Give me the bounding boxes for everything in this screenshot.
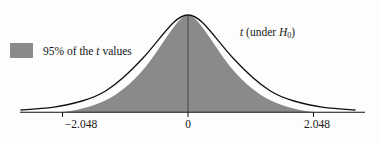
legend: 95% of the t values (10, 43, 132, 58)
curve-label-open: (under (243, 26, 279, 38)
tick-label-positive-critical-value: 2.048 (286, 119, 348, 131)
legend-swatch-shaded-area (10, 43, 33, 58)
curve-label: t (under H0) (240, 27, 295, 40)
legend-text-before: 95% of the (43, 45, 96, 57)
legend-text-after: values (100, 45, 132, 57)
t-distribution-figure: 95% of the t values t (under H0) −2.048 … (0, 0, 380, 144)
curve-label-close: ) (291, 26, 295, 38)
tick-label-zero: 0 (173, 119, 203, 131)
legend-label: 95% of the t values (43, 45, 132, 57)
tick-label-negative-critical-value: −2.048 (48, 119, 114, 131)
